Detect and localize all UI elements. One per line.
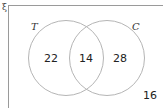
region-neither: 16 bbox=[143, 90, 157, 101]
region-only-c: 28 bbox=[113, 53, 127, 64]
region-both: 14 bbox=[79, 53, 93, 64]
region-only-t: 22 bbox=[44, 53, 58, 64]
set-label-c: C bbox=[132, 22, 140, 32]
set-label-t: T bbox=[31, 22, 38, 32]
universal-set-symbol: ξ bbox=[2, 2, 7, 12]
